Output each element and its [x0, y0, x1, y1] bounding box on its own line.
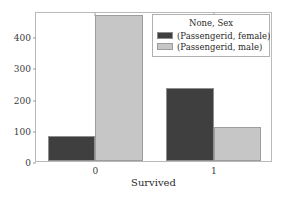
bar — [95, 15, 142, 161]
bar — [48, 136, 95, 161]
legend-swatch-icon — [157, 32, 173, 39]
y-tick-mark — [33, 38, 36, 39]
legend-title: None, Sex — [157, 18, 265, 29]
legend-entries: (Passengerid, female)(Passengerid, male) — [157, 31, 265, 52]
legend-item-label: (Passengerid, female) — [177, 31, 270, 41]
x-axis-label: Survived — [35, 178, 272, 188]
legend-item-label: (Passengerid, male) — [177, 42, 262, 52]
bar-chart-figure: 0100200300400 01 Survived None, Sex (Pas… — [0, 0, 281, 197]
bar — [166, 88, 213, 161]
x-tick-label: 1 — [211, 161, 217, 176]
y-tick-mark — [33, 100, 36, 101]
x-tick-label: 0 — [92, 161, 98, 176]
legend-item: (Passengerid, female) — [157, 31, 265, 41]
legend-item: (Passengerid, male) — [157, 42, 265, 52]
bar — [214, 127, 261, 161]
legend: None, Sex (Passengerid, female)(Passenge… — [152, 14, 270, 57]
y-tick-mark — [33, 131, 36, 132]
legend-swatch-icon — [157, 43, 173, 50]
y-tick-mark — [33, 163, 36, 164]
y-tick-mark — [33, 69, 36, 70]
